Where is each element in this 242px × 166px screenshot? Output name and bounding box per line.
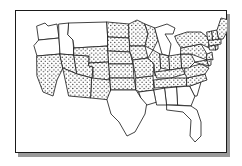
state-NJ[interactable]: New Jersey xyxy=(207,52,213,60)
state-MI[interactable]: Michigan xyxy=(155,24,175,56)
us-choropleth-map: Washington Oregon Idaho Montana Californ… xyxy=(15,10,227,153)
state-KS[interactable]: Kansas xyxy=(109,64,134,78)
state-RI[interactable]: Rhode Island xyxy=(215,45,218,50)
state-OK[interactable]: Oklahoma xyxy=(110,78,136,90)
state-WA[interactable]: Washington xyxy=(37,23,59,40)
state-MT[interactable]: Montana xyxy=(68,22,108,48)
state-ND[interactable]: North Dakota xyxy=(107,22,129,38)
state-SD[interactable]: South Dakota xyxy=(108,37,130,52)
figure-container: Washington Oregon Idaho Montana Californ… xyxy=(0,0,242,166)
state-NE[interactable]: Nebraska xyxy=(108,51,133,64)
state-IA[interactable]: Iowa xyxy=(130,46,148,60)
state-ME[interactable]: Maine xyxy=(217,18,227,39)
states-layer: Washington Oregon Idaho Montana Californ… xyxy=(34,18,227,142)
state-OR[interactable]: Oregon xyxy=(34,38,60,56)
state-AR[interactable]: Arkansas xyxy=(136,76,154,92)
state-FL[interactable]: Florida xyxy=(167,105,201,142)
state-NY[interactable]: New York xyxy=(175,32,211,48)
state-IN[interactable]: Indiana xyxy=(160,54,170,70)
state-CA[interactable]: California xyxy=(37,54,63,96)
state-OH[interactable]: Ohio xyxy=(169,54,182,70)
state-AL[interactable]: Alabama xyxy=(165,87,178,105)
